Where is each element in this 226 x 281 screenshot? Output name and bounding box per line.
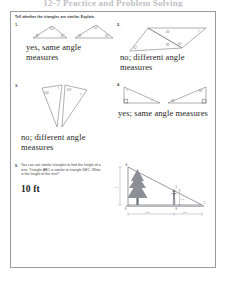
- problem-row-2: 3. 100° ? 110° ?: [15, 77, 211, 159]
- problem-5-answer-text: 10 ft: [21, 184, 40, 194]
- svg-text:?: ?: [80, 93, 82, 97]
- problem-row-1: 1. 112° 34° 34° 112° 34° 34°: [15, 21, 211, 77]
- svg-text:60°: 60°: [178, 42, 182, 46]
- svg-text:12 ft: 12 ft: [182, 211, 187, 214]
- svg-text:?: ?: [151, 99, 153, 103]
- svg-text:E: E: [175, 207, 177, 211]
- problem-4: 4. ? ? 60° 30°: [114, 77, 211, 159]
- problem-3-number: 3.: [15, 83, 18, 88]
- svg-text:D: D: [175, 185, 177, 189]
- page-header: 12-7 Practice and Problem Solving: [0, 0, 226, 7]
- problem-2-answer-text: no; different angle measures: [120, 52, 185, 72]
- svg-text:12 ft: 12 ft: [145, 211, 150, 214]
- problem-2-answer: no; different angle measures: [120, 53, 212, 72]
- problem-4-answer-text: yes; same angle measures: [118, 108, 208, 118]
- svg-text:34°: 34°: [36, 34, 40, 38]
- problem-1-figure: 112° 34° 34° 112° 34° 34°: [29, 21, 115, 43]
- problem-2: 2. 40° ? 60° 52° 88°: [114, 21, 211, 77]
- problem-1-answer: yes, same angle measures: [26, 43, 108, 62]
- svg-text:52°: 52°: [133, 46, 137, 50]
- page-title: 12-7 Practice and Problem Solving: [0, 0, 226, 7]
- problem-1-answer-text: yes, same angle measures: [26, 42, 81, 62]
- svg-text:88°: 88°: [166, 43, 170, 47]
- problem-3-answer-text: no; different angle measures: [21, 132, 86, 152]
- svg-text:34°: 34°: [61, 34, 65, 38]
- problem-1-number: 1.: [15, 22, 18, 27]
- svg-text:60°: 60°: [199, 89, 203, 93]
- problem-3: 3. 100° ? 110° ?: [15, 77, 114, 159]
- worksheet-page: 12-7 Practice and Problem Solving Tell w…: [0, 0, 226, 281]
- problem-5-number: 5.: [15, 163, 18, 168]
- problem-1: 1. 112° 34° 34° 112° 34° 34°: [15, 21, 114, 77]
- svg-text:40°: 40°: [166, 30, 170, 34]
- svg-text:34°: 34°: [105, 34, 109, 38]
- problem-5-figure: A B C D E ? ft: [114, 159, 211, 233]
- svg-text:A: A: [125, 163, 127, 167]
- svg-text:30°: 30°: [171, 99, 175, 103]
- svg-text:34°: 34°: [78, 34, 82, 38]
- problem-2-number: 2.: [117, 22, 120, 27]
- problem-5: 5. You can use similar triangles to find…: [15, 159, 114, 233]
- worksheet-box: Tell whether the triangles are similar. …: [10, 11, 216, 268]
- svg-text:? ft: ? ft: [115, 186, 119, 189]
- svg-text:C: C: [203, 201, 205, 205]
- problem-4-answer: yes; same angle measures: [118, 109, 210, 119]
- svg-text:5 ft: 5 ft: [181, 198, 185, 201]
- svg-text:?: ?: [58, 87, 60, 91]
- problem-4-figure: ? ? 60° 30°: [120, 83, 210, 109]
- problem-3-answer: no; different angle measures: [21, 133, 113, 152]
- svg-text:B: B: [125, 207, 127, 211]
- svg-text:110°: 110°: [67, 88, 72, 92]
- svg-text:112°: 112°: [50, 27, 55, 31]
- problem-3-figure: 100° ? 110° ?: [35, 81, 97, 131]
- svg-text:112°: 112°: [93, 26, 98, 30]
- problem-5-text: You can use similar triangles to find th…: [21, 163, 103, 177]
- problem-row-3: 5. You can use similar triangles to find…: [15, 159, 211, 233]
- svg-text:100°: 100°: [44, 91, 49, 95]
- problem-5-answer: 10 ft: [21, 184, 40, 195]
- instruction-text: Tell whether the triangles are similar. …: [15, 15, 211, 20]
